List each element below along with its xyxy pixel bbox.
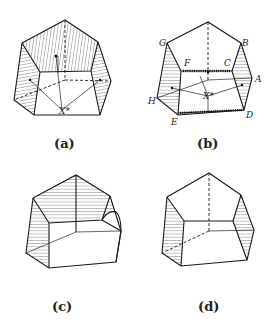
vertex-label-h: H xyxy=(147,96,156,106)
xstar-label: X* xyxy=(202,91,214,101)
vertex-label-f: F xyxy=(183,58,191,68)
panel-d: (d) xyxy=(162,173,254,314)
figure-canvas: X* (a) X* xyxy=(0,0,270,326)
caption-c: (c) xyxy=(52,299,72,314)
caption-b: (b) xyxy=(197,136,218,151)
caption-d: (d) xyxy=(198,299,219,314)
xstar-label: X* xyxy=(58,106,70,116)
panel-c: (c) xyxy=(26,175,121,314)
vertex-label-d: D xyxy=(245,110,253,120)
panel-a: X* (a) xyxy=(14,20,111,151)
vertex-label-b: B xyxy=(241,38,249,48)
vertex-label-g: G xyxy=(159,38,166,48)
vertex-label-e: E xyxy=(170,117,178,127)
hatched-face-right xyxy=(232,43,252,110)
vertex-label-a: A xyxy=(254,74,262,84)
vertex-label-c: C xyxy=(224,58,231,68)
panel-b: X* A B C D E F G H (b) xyxy=(147,22,262,151)
caption-a: (a) xyxy=(54,136,75,151)
